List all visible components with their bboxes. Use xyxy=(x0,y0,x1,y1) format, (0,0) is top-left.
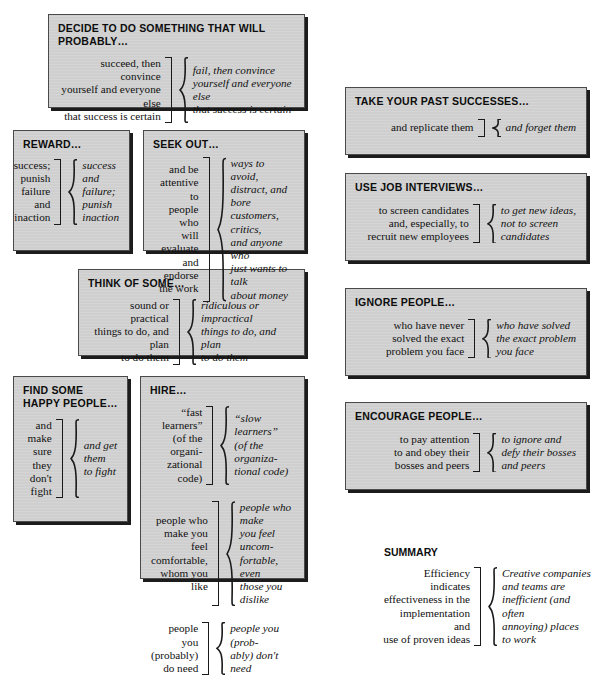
row-left-text: sound or practical things to do, and pla… xyxy=(89,299,169,365)
comparison-row: to screen candidates and, especially, to… xyxy=(356,204,576,244)
summary-row: Efficiency indicates effectiveness in th… xyxy=(383,567,593,646)
row-left-text: people you (probably) do need xyxy=(151,622,198,675)
square-bracket-icon xyxy=(478,119,485,137)
comparison-row: succeed, then convince yourself and ever… xyxy=(59,57,294,123)
row-left-text: “fast learners” (of the organi- zational… xyxy=(151,406,202,485)
summary-title: SUMMARY xyxy=(383,546,593,558)
row-right-text: to get new ideas, not to screen candidat… xyxy=(501,204,576,244)
curly-brace-icon xyxy=(220,406,230,485)
summary-right-text: Creative companies and teams are ineffic… xyxy=(502,567,593,646)
panel-title: USE JOB INTERVIEWS… xyxy=(346,174,586,194)
row-right-text: success and failure; punish inaction xyxy=(82,159,119,225)
panel-reward: REWARD… success; punish failure and inac… xyxy=(13,130,130,251)
square-bracket-icon xyxy=(206,406,213,485)
square-bracket-icon xyxy=(165,57,172,123)
curly-brace-icon xyxy=(68,159,78,225)
square-bracket-icon xyxy=(202,622,209,675)
panel-seek-out: SEEK OUT… and be attentive to people who… xyxy=(143,130,305,251)
comparison-row: who have never solved the exact problem … xyxy=(356,319,576,359)
panel-title: REWARD… xyxy=(14,131,129,151)
panel-take-your-past-successes: TAKE YOUR PAST SUCCESSES… and replicate … xyxy=(345,87,587,155)
square-bracket-icon xyxy=(212,501,219,607)
curly-brace-icon xyxy=(226,501,236,607)
row-left-text: and replicate them xyxy=(391,121,474,134)
panel-think-of-some: THINK OF SOME… sound or practical things… xyxy=(78,269,305,356)
panel-title: THINK OF SOME… xyxy=(79,270,304,290)
row-left-text: who have never solved the exact problem … xyxy=(386,319,464,359)
summary-left-text: Efficiency indicates effectiveness in th… xyxy=(383,567,470,646)
panel-hire: HIRE… “fast learners” (of the organi- za… xyxy=(140,376,305,579)
panel-find-some-happy-people: FIND SOME HAPPY PEOPLE… and make sure th… xyxy=(13,376,128,522)
curly-brace-icon xyxy=(482,319,492,359)
comparison-row: and replicate them and forget them xyxy=(356,119,576,137)
row-left-text: to screen candidates and, especially, to… xyxy=(368,204,469,244)
square-bracket-icon xyxy=(173,299,180,365)
row-right-text: ridiculous or impractical things to do, … xyxy=(201,299,294,365)
panel-ignore-people: IGNORE PEOPLE… who have never solved the… xyxy=(345,288,587,376)
row-right-text: people you (prob- ably) don't need xyxy=(230,622,294,675)
panel-title: DECIDE TO DO SOMETHING THAT WILL PROBABL… xyxy=(49,15,304,47)
panel-title: FIND SOME HAPPY PEOPLE… xyxy=(14,377,127,409)
panel-use-job-interviews: USE JOB INTERVIEWS… to screen candidates… xyxy=(345,173,587,261)
comparison-row: and make sure they don't fight and get t… xyxy=(24,419,117,498)
row-right-text: fail, then convince yourself and everyon… xyxy=(193,64,294,117)
row-right-text: people who make you feel uncom- fortable… xyxy=(240,501,294,607)
row-right-text: “slow learners” (of the organiza- tional… xyxy=(234,412,294,478)
panel-title: TAKE YOUR PAST SUCCESSES… xyxy=(346,88,586,108)
comparison-row: success; punish failure and inaction suc… xyxy=(24,159,119,225)
curly-brace-icon xyxy=(187,299,197,365)
row-left-text: succeed, then convince yourself and ever… xyxy=(59,57,161,123)
comparison-row: people who make you feel comfortable, wh… xyxy=(151,501,294,607)
panel-title: HIRE… xyxy=(141,377,304,397)
square-bracket-icon xyxy=(473,433,480,473)
curly-brace-icon xyxy=(487,433,497,473)
panel-title: IGNORE PEOPLE… xyxy=(346,289,586,309)
panel-title: ENCOURAGE PEOPLE… xyxy=(346,403,586,423)
row-left-text: to pay attention to and obey their bosse… xyxy=(394,433,470,473)
curly-brace-icon xyxy=(216,622,226,675)
square-bracket-icon xyxy=(56,419,63,498)
comparison-row: to pay attention to and obey their bosse… xyxy=(356,433,576,473)
comparison-row: “fast learners” (of the organi- zational… xyxy=(151,406,294,485)
curly-brace-icon xyxy=(488,567,498,646)
square-bracket-icon xyxy=(473,204,480,244)
row-right-text: and get them to fight xyxy=(84,439,117,479)
row-left-text: and make sure they don't fight xyxy=(28,419,52,498)
row-right-text: and forget them xyxy=(506,121,576,134)
panel-encourage-people: ENCOURAGE PEOPLE… to pay attention to an… xyxy=(345,402,587,490)
square-bracket-icon xyxy=(54,159,61,225)
square-bracket-icon xyxy=(474,567,481,646)
comparison-row: people you (probably) do need people you… xyxy=(151,622,294,675)
curly-brace-icon xyxy=(492,119,502,137)
panel-decide: DECIDE TO DO SOMETHING THAT WILL PROBABL… xyxy=(48,14,305,108)
row-left-text: success; punish failure and inaction xyxy=(14,159,51,225)
curly-brace-icon xyxy=(487,204,497,244)
curly-brace-icon xyxy=(179,57,189,123)
curly-brace-icon xyxy=(70,419,80,498)
panel-title: SEEK OUT… xyxy=(144,131,304,151)
square-bracket-icon xyxy=(468,319,475,359)
row-right-text: who have solved the exact problem you fa… xyxy=(496,319,576,359)
row-right-text: to ignore and defy their bosses and peer… xyxy=(501,433,576,473)
summary-block: SUMMARY Efficiency indicates effectivene… xyxy=(383,546,593,646)
row-left-text: people who make you feel comfortable, wh… xyxy=(151,514,208,593)
comparison-row: sound or practical things to do, and pla… xyxy=(89,299,294,365)
